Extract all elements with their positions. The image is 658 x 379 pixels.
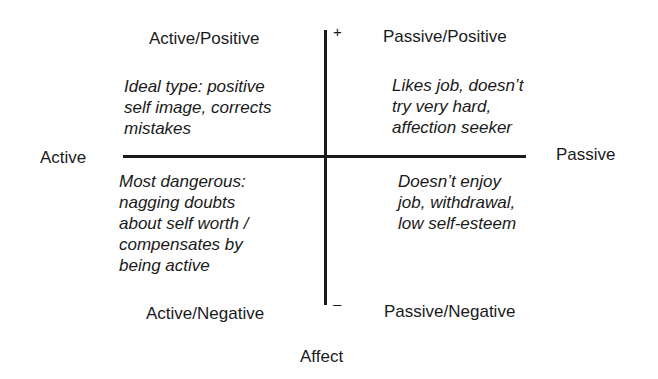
quadrant-title-active-negative: Active/Negative: [146, 304, 264, 324]
axis-label-active: Active: [40, 148, 86, 168]
quadrant-title-passive-positive: Passive/Positive: [383, 27, 507, 47]
plus-sign: +: [333, 24, 342, 39]
quadrant-desc-passive-negative: Doesn’t enjoy job, withdrawal, low self-…: [398, 171, 516, 234]
quadrant-desc-active-negative: Most dangerous: nagging doubts about sel…: [119, 171, 248, 276]
minus-sign: –: [333, 296, 341, 311]
horizontal-axis-line: [123, 155, 526, 158]
quadrant-desc-passive-positive: Likes job, doesn’t try very hard, affect…: [392, 75, 523, 138]
vertical-axis-line: [324, 30, 327, 305]
axis-label-affect: Affect: [300, 347, 343, 367]
quadrant-title-passive-negative: Passive/Negative: [384, 302, 515, 322]
axis-label-passive: Passive: [556, 145, 616, 165]
quadrant-title-active-positive: Active/Positive: [149, 29, 260, 49]
quadrant-desc-active-positive: Ideal type: positive self image, correct…: [124, 76, 271, 139]
